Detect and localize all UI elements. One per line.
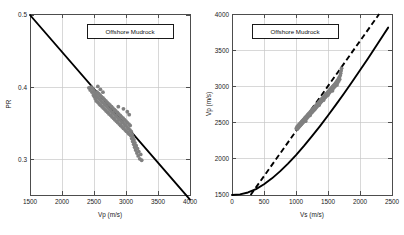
- tick-labels-y-left: 0.3 0.4 0.5: [18, 11, 27, 163]
- chart-panel-vp-vs-vs: 0 500 1000 1500 2000 2500 1500 2000 2500…: [202, 0, 404, 235]
- axis-frame-right: [232, 14, 392, 195]
- scatter-point: [139, 153, 143, 157]
- svg-text:0.3: 0.3: [18, 156, 27, 163]
- scatter-point: [96, 85, 100, 89]
- scatter-point: [331, 89, 335, 93]
- svg-text:3500: 3500: [215, 47, 230, 54]
- svg-text:0: 0: [230, 198, 234, 205]
- figure-offshore-mudrock-crossplots: 1500 2000 2500 3000 3500 4000 0.3 0.4 0.…: [0, 0, 404, 235]
- scatter-point: [122, 107, 126, 111]
- svg-text:2500: 2500: [215, 119, 230, 126]
- scatter-point: [140, 158, 144, 162]
- scatter-point: [99, 87, 103, 91]
- tick-group-right: [232, 14, 392, 195]
- legend-box-right: Offshore Mudrock: [252, 24, 338, 38]
- scatter-point: [340, 66, 344, 70]
- scatter-point: [128, 124, 132, 128]
- x-axis-title-left: Vp (m/s): [98, 211, 122, 219]
- svg-text:2000: 2000: [353, 198, 368, 205]
- scatter-point: [313, 108, 317, 112]
- scatter-point: [116, 105, 120, 109]
- scatter-point: [338, 77, 342, 81]
- scatter-point: [335, 83, 339, 87]
- svg-text:2000: 2000: [55, 198, 70, 205]
- y-axis-title-right: Vp (m/s): [205, 92, 213, 116]
- svg-text:4000: 4000: [183, 198, 198, 205]
- scatter-point: [304, 119, 308, 123]
- svg-text:2500: 2500: [385, 198, 400, 205]
- svg-text:0.4: 0.4: [18, 84, 27, 91]
- svg-text:1500: 1500: [23, 198, 38, 205]
- x-axis-title-right: Vs (m/s): [300, 211, 324, 219]
- svg-text:2000: 2000: [215, 155, 230, 162]
- svg-text:0.5: 0.5: [18, 11, 27, 18]
- legend-label-right: Offshore Mudrock: [270, 28, 320, 35]
- svg-text:500: 500: [259, 198, 270, 205]
- svg-text:4000: 4000: [215, 11, 230, 18]
- svg-text:2500: 2500: [87, 198, 102, 205]
- svg-text:3000: 3000: [215, 83, 230, 90]
- grid-group-right: [232, 14, 392, 195]
- svg-text:1500: 1500: [215, 191, 230, 198]
- svg-text:1000: 1000: [289, 198, 304, 205]
- legend-label-left: Offshore Mudrock: [105, 28, 155, 35]
- plot-svg-right: 0 500 1000 1500 2000 2500 1500 2000 2500…: [202, 0, 404, 235]
- scatter-point: [322, 98, 326, 102]
- y-axis-title-left: PR: [5, 99, 12, 108]
- tick-labels-x-left: 1500 2000 2500 3000 3500 4000: [23, 198, 198, 205]
- svg-text:3500: 3500: [151, 198, 166, 205]
- scatter-point: [125, 110, 129, 114]
- legend-box-left: Offshore Mudrock: [87, 24, 173, 38]
- svg-text:3000: 3000: [119, 198, 134, 205]
- scatter-point: [317, 103, 321, 107]
- chart-panel-pr-vs-vp: 1500 2000 2500 3000 3500 4000 0.3 0.4 0.…: [0, 0, 202, 235]
- scatter-point: [308, 113, 312, 117]
- svg-text:1500: 1500: [321, 198, 336, 205]
- tick-labels-y-right: 1500 2000 2500 3000 3500 4000: [215, 11, 230, 199]
- tick-labels-x-right: 0 500 1000 1500 2000 2500: [230, 198, 399, 205]
- scatter-cloud-left: [87, 85, 144, 163]
- scatter-point: [326, 93, 330, 97]
- plot-svg-left: 1500 2000 2500 3000 3500 4000 0.3 0.4 0.…: [0, 0, 202, 235]
- scatter-point: [101, 90, 105, 94]
